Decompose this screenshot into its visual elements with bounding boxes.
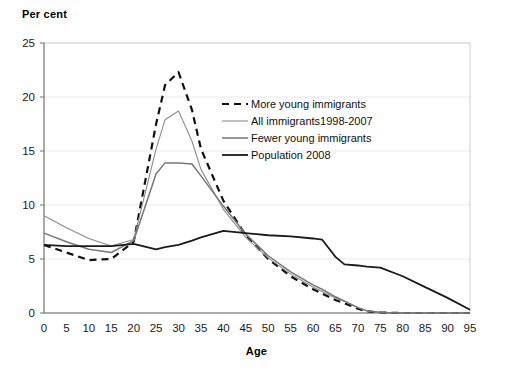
x-tick-label: 90 — [441, 322, 454, 334]
x-tick-label: 45 — [239, 322, 252, 334]
legend-label-0: More young immigrants — [251, 98, 366, 110]
y-axis-tick-labels: 0510152025 — [22, 37, 44, 319]
x-tick-label: 40 — [217, 322, 230, 334]
x-tick-label: 60 — [307, 322, 320, 334]
x-tick-label: 65 — [329, 322, 342, 334]
x-tick-label: 10 — [82, 322, 95, 334]
x-tick-label: 20 — [127, 322, 140, 334]
legend-label-2: Fewer young immigrants — [251, 132, 372, 144]
y-tick-label: 20 — [22, 91, 35, 103]
x-tick-label: 80 — [396, 322, 409, 334]
x-tick-label: 0 — [41, 322, 47, 334]
x-tick-label: 95 — [464, 322, 477, 334]
x-tick-label: 30 — [172, 322, 185, 334]
x-tick-label: 35 — [195, 322, 208, 334]
x-tick-label: 55 — [284, 322, 297, 334]
x-tick-label: 85 — [419, 322, 432, 334]
series-line-3 — [44, 231, 470, 310]
plot-frame — [44, 43, 470, 313]
series-line-2 — [44, 163, 470, 313]
chart-legend: More young immigrantsAll immigrants1998-… — [222, 98, 373, 161]
x-tick-label: 75 — [374, 322, 387, 334]
y-tick-label: 5 — [29, 253, 35, 265]
x-tick-label: 5 — [63, 322, 69, 334]
x-tick-label: 15 — [105, 322, 118, 334]
legend-label-3: Population 2008 — [251, 149, 331, 161]
line-chart-plot: 0510152025 05101520253035404550556065707… — [0, 0, 513, 379]
y-tick-label: 0 — [29, 307, 35, 319]
y-tick-label: 10 — [22, 199, 35, 211]
x-tick-label: 25 — [150, 322, 163, 334]
legend-label-1: All immigrants1998-2007 — [251, 115, 373, 127]
y-tick-label: 25 — [22, 37, 35, 49]
chart-container: Per cent Age 0510152025 0510152025303540… — [0, 0, 513, 379]
x-axis-tick-labels: 05101520253035404550556065707580859095 — [41, 322, 477, 334]
x-tick-label: 50 — [262, 322, 275, 334]
y-tick-label: 15 — [22, 145, 35, 157]
x-tick-label: 70 — [351, 322, 364, 334]
